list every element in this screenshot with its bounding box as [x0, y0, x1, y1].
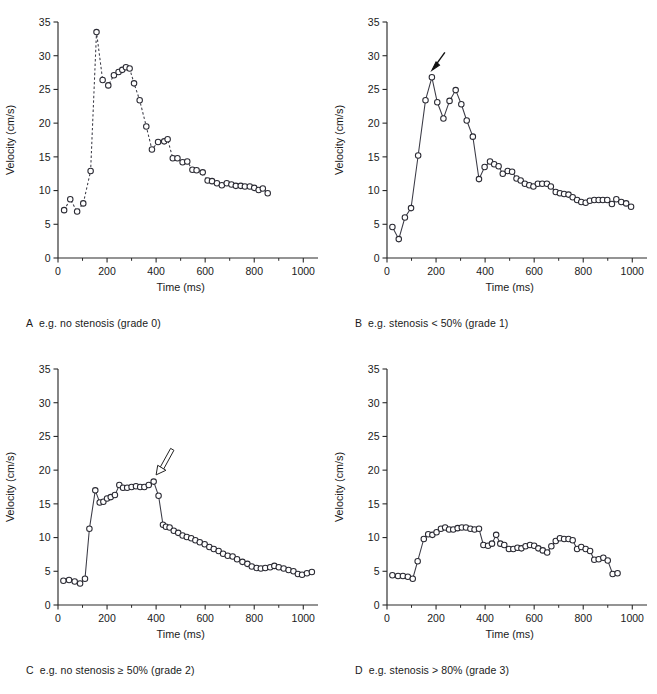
panel-b: 0510152025303502004006008001000Time (ms)… [329, 0, 657, 347]
data-point-marker [88, 168, 94, 174]
data-point-marker [396, 236, 402, 242]
y-tick-label: 5 [45, 565, 51, 577]
y-tick-label: 10 [368, 531, 380, 543]
data-point-marker [489, 541, 495, 547]
x-axis-title: Time (ms) [157, 281, 205, 293]
data-point-marker [408, 205, 414, 211]
y-tick-label: 10 [368, 184, 380, 196]
y-tick-label: 0 [45, 252, 51, 264]
x-axis-title: Time (ms) [157, 628, 205, 640]
x-tick-label: 0 [55, 612, 61, 624]
data-point-marker [421, 536, 427, 542]
y-tick-label: 30 [368, 397, 380, 409]
x-tick-label: 200 [98, 612, 116, 624]
figure-container: 0510152025303502004006008001000Time (ms)… [0, 0, 657, 694]
data-point-marker [390, 224, 396, 230]
x-tick-label: 0 [384, 612, 390, 624]
panel-c: 0510152025303502004006008001000Time (ms)… [0, 347, 328, 694]
y-tick-label: 15 [368, 151, 380, 163]
data-point-marker [605, 558, 611, 564]
data-point-marker [476, 176, 482, 182]
data-point-marker [156, 493, 162, 499]
panel-b-caption: Be.g. stenosis < 50% (grade 1) [355, 317, 508, 329]
data-point-marker [623, 201, 629, 207]
y-tick-label: 35 [39, 16, 51, 28]
y-tick-label: 35 [368, 16, 380, 28]
data-point-marker [544, 550, 550, 556]
y-tick-label: 5 [374, 565, 380, 577]
panel-a-caption-text: e.g. no stenosis (grade 0) [39, 317, 161, 329]
x-tick-label: 200 [427, 612, 445, 624]
y-tick-label: 0 [374, 252, 380, 264]
data-point-marker [615, 571, 621, 577]
y-tick-label: 20 [368, 117, 380, 129]
y-tick-label: 35 [39, 363, 51, 375]
panel-c-caption-text: e.g. no stenosis ≥ 50% (grade 2) [40, 664, 195, 676]
y-tick-label: 35 [368, 363, 380, 375]
data-point-marker [493, 532, 499, 538]
data-point-marker [185, 159, 191, 165]
y-tick-label: 0 [374, 599, 380, 611]
data-point-marker [402, 215, 408, 221]
data-point-marker [265, 191, 271, 197]
arrow-head [432, 62, 440, 70]
x-tick-label: 0 [55, 265, 61, 277]
y-tick-label: 25 [368, 83, 380, 95]
x-tick-label: 800 [574, 612, 592, 624]
data-point-marker [112, 492, 118, 498]
data-point-marker [502, 542, 508, 548]
y-tick-label: 20 [39, 464, 51, 476]
data-point-marker [72, 579, 78, 585]
data-point-marker [570, 538, 576, 544]
data-point-marker [94, 29, 100, 35]
data-point-marker [509, 169, 514, 175]
y-tick-label: 30 [39, 50, 51, 62]
data-point-marker [628, 204, 634, 210]
y-tick-label: 25 [368, 430, 380, 442]
data-point-marker [453, 87, 459, 93]
y-tick-label: 5 [45, 218, 51, 230]
data-point-marker [82, 576, 88, 582]
data-point-marker [165, 137, 171, 143]
x-tick-label: 800 [574, 265, 592, 277]
data-point-marker [87, 526, 93, 532]
data-point-marker [605, 197, 611, 203]
x-tick-label: 400 [476, 265, 494, 277]
panel-c-letter: C [26, 664, 34, 676]
data-point-marker [470, 134, 476, 140]
y-tick-label: 15 [39, 151, 51, 163]
data-point-marker [81, 201, 87, 207]
panel-b-letter: B [355, 317, 362, 329]
y-axis-title: Velocity (cm/s) [333, 452, 345, 522]
panel-a-caption: Ae.g. no stenosis (grade 0) [26, 317, 161, 329]
y-tick-label: 5 [374, 218, 380, 230]
data-point-marker [68, 197, 74, 203]
panel-d-letter: D [355, 664, 363, 676]
y-tick-label: 15 [39, 498, 51, 510]
x-tick-label: 800 [245, 265, 263, 277]
panel-a: 0510152025303502004006008001000Time (ms)… [0, 0, 328, 347]
data-point-marker [77, 581, 83, 587]
annotation-arrow-icon [432, 52, 445, 70]
x-tick-label: 1000 [621, 265, 645, 277]
panel-c-caption: Ce.g. no stenosis ≥ 50% (grade 2) [26, 664, 195, 676]
panel-d-caption-text: e.g. stenosis > 80% (grade 3) [369, 664, 509, 676]
panel-d: 0510152025303502004006008001000Time (ms)… [329, 347, 657, 694]
data-point-marker [131, 81, 137, 87]
y-tick-label: 30 [39, 397, 51, 409]
data-point-marker [155, 139, 161, 145]
plot-d: 0510152025303502004006008001000Time (ms)… [329, 347, 657, 667]
data-point-marker [175, 155, 181, 161]
plot-c: 0510152025303502004006008001000Time (ms)… [0, 347, 328, 667]
data-point-marker [144, 124, 150, 130]
data-point-marker [100, 77, 106, 83]
data-point-marker [149, 147, 155, 153]
plot-b: 0510152025303502004006008001000Time (ms)… [329, 0, 657, 320]
data-point-marker [127, 66, 133, 72]
data-point-marker [200, 170, 206, 176]
x-tick-label: 1000 [292, 612, 316, 624]
data-point-marker [459, 102, 465, 108]
x-tick-label: 1000 [621, 612, 645, 624]
data-point-marker [61, 578, 67, 584]
data-point-marker [435, 99, 441, 105]
